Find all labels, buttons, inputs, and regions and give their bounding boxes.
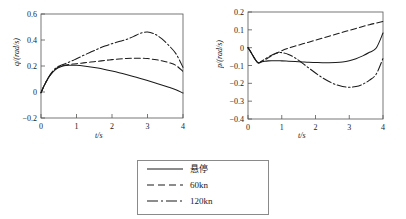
p-chart-series-2 <box>248 48 383 88</box>
q-chart-xtick-4: 4 <box>181 122 185 131</box>
legend-row-2: 120kn <box>138 193 268 209</box>
q-chart-series-0 <box>41 65 183 93</box>
chart-panel-q: 01234−0.200.20.40.6 q/(rad/s) t/s <box>0 0 203 160</box>
q-chart-ytick-3: 0.4 <box>27 36 37 45</box>
p-chart-x-axis-label: t/s <box>298 131 306 140</box>
q-chart-x-axis-label: t/s <box>95 131 103 140</box>
legend-sample-solid <box>146 164 184 174</box>
q-chart-ytick-1: 0 <box>33 88 37 97</box>
q-chart-series-1 <box>41 58 183 92</box>
legend-label-60kn: 60kn <box>190 181 208 190</box>
p-chart-ytick-6: 0.2 <box>234 8 244 17</box>
p-chart-ytick-1: −0.3 <box>229 97 244 106</box>
legend-sample-dashed <box>146 180 184 190</box>
p-chart-xtick-4: 4 <box>381 123 385 132</box>
q-chart-ytick-0: −0.2 <box>22 114 37 123</box>
q-chart-xtick-0: 0 <box>39 122 43 131</box>
q-chart-xtick-2: 2 <box>110 122 114 131</box>
q-chart-y-axis-label: q/(rad/s) <box>12 38 21 66</box>
p-chart-ytick-0: −0.4 <box>229 115 244 124</box>
chart-panel-p: 01234−0.4−0.3−0.2−0.100.10.2 p/(rad/s) t… <box>203 0 406 160</box>
p-chart-ytick-3: −0.1 <box>229 62 244 71</box>
p-chart-series-1 <box>248 21 383 62</box>
legend-row-1: 60kn <box>138 177 268 193</box>
q-chart-ytick-4: 0.6 <box>27 10 37 19</box>
p-chart-xtick-0: 0 <box>246 123 250 132</box>
legend-label-120kn: 120kn <box>190 197 213 206</box>
p-chart-y-axis-label: p/(rad/s) <box>215 40 224 68</box>
p-chart-ytick-5: 0.1 <box>234 26 244 35</box>
legend-row-0: 悬停 <box>138 161 268 177</box>
legend-sample-dashdot <box>146 196 184 206</box>
figure-root: 01234−0.200.20.40.6 q/(rad/s) t/s 01234−… <box>0 0 406 219</box>
q-chart-xtick-3: 3 <box>146 122 150 131</box>
q-chart-series-2 <box>41 32 183 93</box>
p-chart-ytick-2: −0.2 <box>229 79 244 88</box>
q-chart-xtick-1: 1 <box>75 122 79 131</box>
p-chart-ytick-4: 0 <box>240 44 244 53</box>
q-chart-ytick-2: 0.2 <box>27 62 37 71</box>
p-chart-xtick-2: 2 <box>314 123 318 132</box>
series-legend: 悬停 60kn 120kn <box>137 160 269 215</box>
p-chart-xtick-1: 1 <box>280 123 284 132</box>
legend-label-hover: 悬停 <box>190 165 208 174</box>
p-chart-series-0 <box>248 33 383 63</box>
p-chart-xtick-3: 3 <box>347 123 351 132</box>
